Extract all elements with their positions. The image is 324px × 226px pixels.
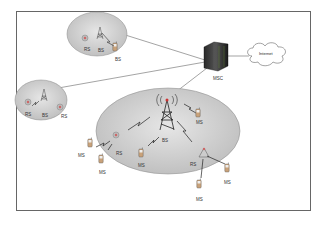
- rs-icon: [82, 35, 88, 41]
- cell-left: RS BS RS: [15, 80, 67, 120]
- svg-text:BS: BS: [162, 138, 168, 143]
- svg-text:MS: MS: [138, 163, 145, 168]
- phone-icon: [113, 42, 117, 52]
- svg-text:MSC: MSC: [213, 76, 224, 81]
- svg-text:RS: RS: [190, 162, 196, 167]
- svg-text:BS: BS: [115, 57, 121, 62]
- svg-text:RS: RS: [25, 112, 31, 117]
- internet-cloud-icon: Internet: [248, 43, 286, 66]
- rs-icon: [57, 104, 63, 110]
- phone-icon: [139, 148, 143, 158]
- svg-text:MS: MS: [196, 120, 203, 125]
- svg-text:MS: MS: [224, 180, 231, 185]
- svg-text:RS: RS: [61, 114, 67, 119]
- msc-server-icon: MSC: [204, 42, 228, 81]
- svg-text:MS: MS: [78, 153, 85, 158]
- svg-text:BS: BS: [42, 113, 48, 118]
- cell-top: RS BS BS: [67, 12, 127, 62]
- phone-icon: [225, 163, 229, 173]
- svg-text:MS: MS: [99, 170, 106, 175]
- svg-text:RS: RS: [116, 151, 122, 156]
- link-left-cell-msc: [47, 62, 205, 90]
- phone-icon: [99, 154, 103, 164]
- svg-text:BS: BS: [98, 48, 104, 53]
- rs-icon: [25, 99, 31, 105]
- phone-icon: [88, 138, 92, 148]
- network-diagram: RS BS BS RS BS RS BS RS RS: [0, 0, 324, 226]
- rs-icon: [113, 132, 119, 138]
- svg-text:RS: RS: [84, 47, 90, 52]
- cell-main: BS RS RS: [96, 88, 240, 178]
- phone-icon: [197, 179, 201, 189]
- phone-icon: [196, 108, 200, 118]
- svg-text:MS: MS: [196, 197, 203, 202]
- svg-text:Internet: Internet: [259, 51, 273, 56]
